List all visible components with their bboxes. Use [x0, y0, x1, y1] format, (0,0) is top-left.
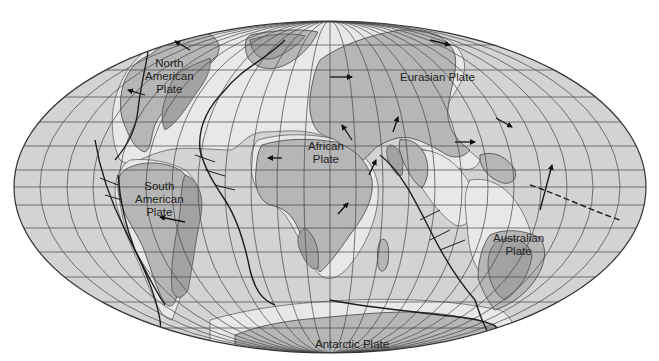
label-line: Antarctic Plate — [315, 338, 389, 351]
label-line: Plate — [135, 206, 184, 219]
label-line: South — [135, 180, 184, 193]
tectonic-plate-map — [0, 0, 659, 361]
label-line: Plate — [493, 245, 544, 258]
label-line: African — [308, 140, 344, 153]
madagascar-landmass — [377, 239, 388, 271]
label-eurasian-plate: Eurasian Plate — [400, 71, 475, 84]
label-line: Eurasian Plate — [400, 71, 475, 84]
label-antarctic-plate: Antarctic Plate — [315, 338, 389, 351]
label-line: Australian — [493, 232, 544, 245]
label-line: American — [145, 70, 194, 83]
label-south-american-plate: South American Plate — [135, 180, 184, 219]
label-african-plate: African Plate — [308, 140, 344, 166]
label-line: Plate — [145, 83, 194, 96]
label-australian-plate: Australian Plate — [493, 232, 544, 258]
label-north-american-plate: North American Plate — [145, 57, 194, 96]
label-line: North — [145, 57, 194, 70]
label-line: American — [135, 193, 184, 206]
label-line: Plate — [308, 153, 344, 166]
